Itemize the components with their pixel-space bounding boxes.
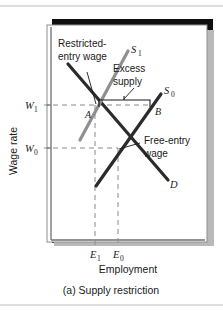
annotation-free-entry-wage-line2: wage (143, 148, 168, 159)
annotation-restricted-entry-wage-line2: entry wage (58, 51, 107, 62)
annotation-free-entry-wage-line1: Free-entry (144, 135, 190, 146)
figure-caption: (a) Supply restriction (63, 284, 159, 296)
y-tick-label-w1: W 1 (25, 100, 38, 114)
x-tick-label-e1-sub: 1 (97, 254, 101, 263)
annotation-restricted-entry-wage-line1: Restricted- (58, 38, 106, 49)
curve-label-s0-base: S (164, 85, 170, 96)
annotation-excess-supply-line1: Excess (113, 63, 145, 74)
annotation-excess-supply-line2: supply (113, 76, 142, 87)
x-tick-label-e1: E 1 (89, 249, 101, 263)
economics-supply-restriction-figure: Wage rate W 1 W 0 E 1 E 0 Employment S 1 (0, 0, 223, 311)
curve-label-s1-sub: 1 (138, 49, 142, 58)
curve-label-d: D (169, 179, 178, 190)
y-axis-label: Wage rate (7, 127, 19, 175)
y-tick-label-w1-sub: 1 (34, 105, 38, 114)
y-tick-label-w0: W 0 (25, 143, 38, 157)
point-label-b: B (155, 106, 161, 117)
panel-shadow-light-right (207, 30, 214, 246)
x-tick-label-e1-base: E (89, 249, 97, 260)
y-tick-label-w0-sub: 0 (34, 148, 38, 157)
curve-label-s1-base: S (131, 44, 137, 55)
x-tick-label-e0-base: E (112, 249, 120, 260)
x-tick-label-e0-sub: 0 (120, 254, 124, 263)
point-label-a: A (84, 109, 92, 120)
curve-label-s0-sub: 0 (171, 90, 175, 99)
figure-canvas: Wage rate W 1 W 0 E 1 E 0 Employment S 1 (0, 0, 223, 311)
x-axis-label: Employment (99, 263, 157, 275)
x-tick-label-e0: E 0 (112, 249, 124, 263)
